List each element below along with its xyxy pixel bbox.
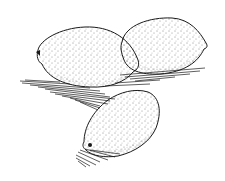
lemons-illustration <box>0 0 225 181</box>
bottom-lemon <box>83 90 159 156</box>
lemons-drawing <box>0 0 225 181</box>
